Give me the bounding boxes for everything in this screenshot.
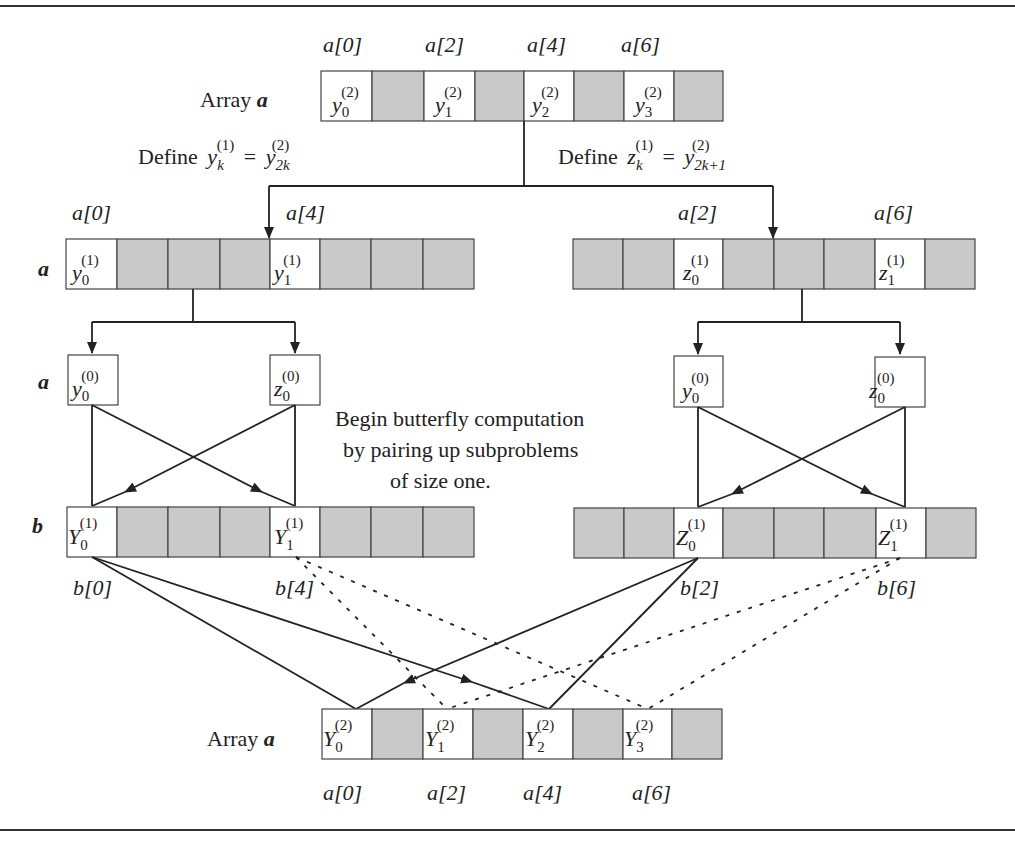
- index-label: a[4]: [286, 200, 325, 225]
- index-label: a[2]: [427, 780, 466, 805]
- index-label: a[6]: [632, 780, 671, 805]
- index-label: a[4]: [527, 32, 566, 57]
- b-right-array: Z0(1) Z1(1) b[2] b[6]: [574, 508, 976, 600]
- level0-right: y0(0) z0(0): [674, 356, 925, 407]
- index-label: a[2]: [425, 32, 464, 57]
- array-name: a: [38, 256, 49, 281]
- index-label: a[0]: [323, 780, 362, 805]
- top-array: a[0] a[2] a[4] a[6] Array a y0(2) y1(2) …: [200, 32, 723, 121]
- row-label: Array a: [207, 726, 275, 751]
- index-label: b[0]: [73, 575, 112, 600]
- index-label: a[0]: [323, 32, 362, 57]
- index-label: b[2]: [680, 575, 719, 600]
- bottom-array: Array a Y0(2) Y1(2) Y2(2) Y3(2) a[0] a[2…: [207, 709, 722, 805]
- index-label: b[6]: [877, 575, 916, 600]
- row-label: Array a: [200, 87, 268, 112]
- level1-to-level0-connectors: [92, 289, 900, 354]
- level1-right-array: a[2] a[6] z0(1) z1(1): [573, 200, 975, 289]
- index-label: a[2]: [678, 200, 717, 225]
- index-label: a[6]: [874, 200, 913, 225]
- level0-left: a y0(0) z0(0): [38, 355, 320, 405]
- butterfly-level1-solid: [92, 557, 698, 709]
- array-name: a: [38, 369, 49, 394]
- index-label: b[4]: [275, 575, 314, 600]
- svg-text:by pairing up subproblems: by pairing up subproblems: [343, 437, 578, 462]
- svg-text:Begin butterfly computation: Begin butterfly computation: [335, 406, 584, 431]
- define-z-label: Define zk(1) = y2k+1(2): [558, 130, 726, 173]
- butterfly-annotation: Begin butterfly computation by pairing u…: [335, 406, 584, 493]
- fft-butterfly-diagram: a[0] a[2] a[4] a[6] Array a y0(2) y1(2) …: [0, 0, 1015, 844]
- define-y-label: Define yk(1) = y2k(2): [138, 130, 290, 173]
- index-label: a[6]: [621, 32, 660, 57]
- level1-left-array: a a[0] a[4] y0(1) y1(1): [38, 200, 474, 289]
- index-label: a[0]: [72, 200, 111, 225]
- butterfly-level1-dashed: [296, 557, 900, 709]
- svg-text:of size one.: of size one.: [390, 468, 491, 493]
- b-left-array: b Y0(1) Y1(1) b[0] b[4]: [32, 507, 474, 600]
- array-name: b: [32, 513, 43, 538]
- index-label: a[4]: [523, 780, 562, 805]
